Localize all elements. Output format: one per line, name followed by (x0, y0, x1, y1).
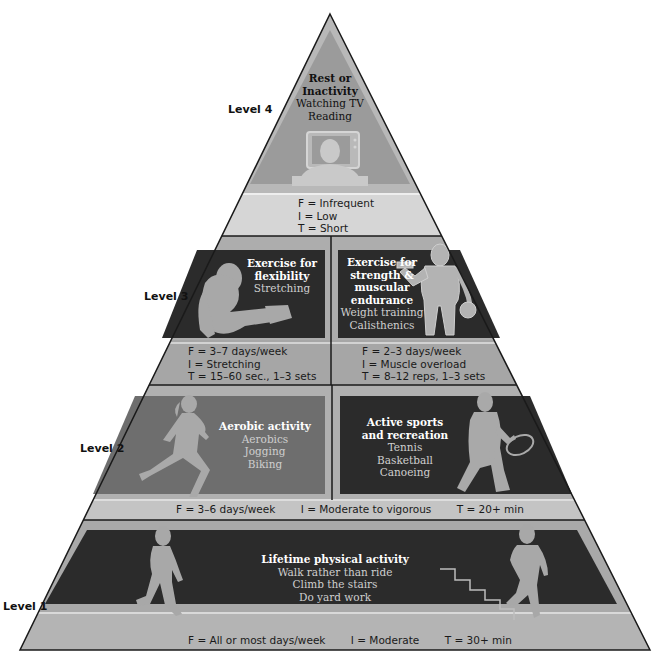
level4-label: Level 4 (228, 103, 272, 116)
level3-left-fit: F = 3–7 days/week I = Stretching T = 15–… (188, 345, 316, 383)
level1-label: Level 1 (3, 600, 47, 613)
level3-left-title: Exercise for flexibility Stretching (240, 257, 324, 295)
level2-right-title: Active sports and recreation Tennis Bask… (355, 416, 455, 479)
level4-title: Rest or Inactivity Watching TV Reading (270, 72, 390, 122)
activity-pyramid: Level 4 Level 3 Level 2 Level 1 Rest or … (0, 0, 655, 667)
level3-label: Level 3 (144, 290, 188, 303)
level3-right-title: Exercise for strength & muscular enduran… (336, 256, 428, 331)
level2-label: Level 2 (80, 442, 124, 455)
level1-title: Lifetime physical activity Walk rather t… (250, 553, 420, 603)
level3-right-fit: F = 2–3 days/week I = Muscle overload T … (362, 345, 485, 383)
level2-fit: F = 3–6 days/week I = Moderate to vigoro… (176, 503, 546, 515)
level2-left-title: Aerobic activity Aerobics Jogging Biking (215, 420, 315, 470)
level4-fit: F = Infrequent I = Low T = Short (298, 197, 374, 235)
level1-fit: F = All or most days/week I = Moderate T… (188, 634, 534, 646)
